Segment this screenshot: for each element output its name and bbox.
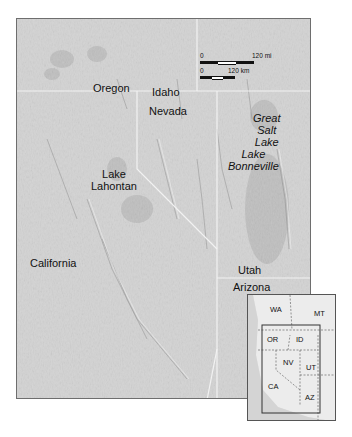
label-arizona: Arizona xyxy=(233,281,270,293)
inset-label-ut: UT xyxy=(306,363,316,372)
inset-label-az: AZ xyxy=(305,393,315,402)
inset-locator-map: WA MT OR ID NV UT CA AZ xyxy=(247,294,336,421)
scale-mi-zero: 0 xyxy=(200,52,204,59)
label-idaho: Idaho xyxy=(152,86,180,98)
scale-mi-end: 120 mi xyxy=(252,52,272,59)
label-utah: Utah xyxy=(238,264,261,276)
scale-km-end: 120 km xyxy=(228,67,249,74)
scale-km-zero: 0 xyxy=(200,67,204,74)
inset-label-or: OR xyxy=(267,335,278,344)
scale-bar: 0 120 mi 0 120 km xyxy=(200,53,290,83)
inset-label-id: ID xyxy=(296,335,304,344)
inset-label-nv: NV xyxy=(283,358,293,367)
label-nevada: Nevada xyxy=(149,105,187,117)
label-lake-bonneville: Lake Bonneville xyxy=(228,148,279,172)
inset-label-ca: CA xyxy=(268,382,278,391)
label-oregon: Oregon xyxy=(93,82,130,94)
inset-label-wa: WA xyxy=(270,305,282,314)
label-lake-lahontan: Lake Lahontan xyxy=(91,168,137,192)
inset-label-mt: MT xyxy=(314,309,325,318)
label-california: California xyxy=(30,257,76,269)
label-great-salt-lake: Great Salt Lake xyxy=(253,112,281,148)
